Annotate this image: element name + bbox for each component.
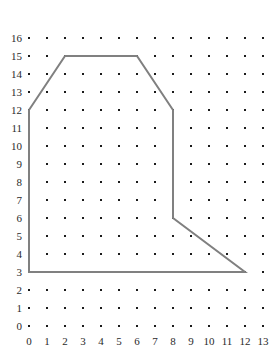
lattice-dot (262, 235, 264, 237)
lattice-dot (28, 37, 30, 39)
lattice-dot (226, 217, 228, 219)
lattice-dot (226, 145, 228, 147)
y-axis-tick-label: 0 (17, 321, 23, 332)
lattice-dot (154, 127, 156, 129)
y-axis-tick-label: 11 (11, 123, 22, 134)
lattice-dot (262, 163, 264, 165)
lattice-dot (118, 181, 120, 183)
lattice-dot (172, 55, 174, 57)
lattice-dot (118, 253, 120, 255)
x-axis-tick-label: 13 (258, 336, 269, 347)
lattice-dot-group (28, 37, 264, 327)
lattice-dot (82, 145, 84, 147)
lattice-dot (46, 235, 48, 237)
lattice-dot (208, 109, 210, 111)
polygon-plot (0, 0, 278, 354)
lattice-dot (46, 217, 48, 219)
lattice-dot (154, 217, 156, 219)
lattice-dot (82, 91, 84, 93)
lattice-dot (46, 163, 48, 165)
x-axis-tick-label: 6 (134, 336, 140, 347)
lattice-dot (118, 199, 120, 201)
lattice-dot (190, 127, 192, 129)
lattice-dot (208, 325, 210, 327)
lattice-dot (82, 253, 84, 255)
lattice-dot (154, 307, 156, 309)
lattice-dot (190, 163, 192, 165)
lattice-dot (64, 163, 66, 165)
lattice-dot (190, 109, 192, 111)
lattice-dot (118, 289, 120, 291)
lattice-dot (244, 73, 246, 75)
x-axis-tick-label: 3 (80, 336, 86, 347)
lattice-dot (46, 325, 48, 327)
y-axis-tick-label: 7 (17, 195, 23, 206)
x-axis-tick-label: 5 (116, 336, 122, 347)
lattice-dot (154, 289, 156, 291)
lattice-dot (100, 325, 102, 327)
lattice-dot (208, 253, 210, 255)
lattice-dot (28, 307, 30, 309)
lattice-dot (208, 289, 210, 291)
lattice-dot (208, 217, 210, 219)
lattice-dot (64, 91, 66, 93)
lattice-dot (190, 325, 192, 327)
lattice-dot (82, 235, 84, 237)
lattice-dot (172, 235, 174, 237)
lattice-dot (64, 181, 66, 183)
lattice-dot (244, 55, 246, 57)
lattice-dot (82, 73, 84, 75)
lattice-dot (244, 307, 246, 309)
lattice-dot (100, 109, 102, 111)
lattice-dot (262, 37, 264, 39)
lattice-dot (226, 289, 228, 291)
x-axis-tick-label: 4 (98, 336, 104, 347)
lattice-dot (136, 289, 138, 291)
y-axis-tick-label: 5 (17, 231, 23, 242)
lattice-dot (244, 253, 246, 255)
y-axis-tick-label: 6 (17, 213, 23, 224)
lattice-dot (244, 91, 246, 93)
lattice-dot (154, 145, 156, 147)
lattice-dot (136, 217, 138, 219)
lattice-dot (100, 217, 102, 219)
lattice-dot (136, 325, 138, 327)
lattice-dot (154, 109, 156, 111)
lattice-dot (190, 73, 192, 75)
lattice-dot (226, 73, 228, 75)
lattice-dot (244, 37, 246, 39)
lattice-dot (190, 235, 192, 237)
lattice-dot (190, 91, 192, 93)
lattice-dot (262, 55, 264, 57)
lattice-dot (244, 163, 246, 165)
lattice-dot (244, 127, 246, 129)
lattice-dot (136, 127, 138, 129)
lattice-dot (154, 91, 156, 93)
lattice-dot (172, 253, 174, 255)
x-axis-tick-label: 12 (240, 336, 251, 347)
lattice-dot (28, 325, 30, 327)
lattice-dot (136, 91, 138, 93)
lattice-dot (190, 55, 192, 57)
lattice-dot (118, 217, 120, 219)
lattice-dot (262, 253, 264, 255)
lattice-dot (118, 37, 120, 39)
lattice-dot (46, 289, 48, 291)
lattice-dot (262, 109, 264, 111)
lattice-dot (82, 37, 84, 39)
lattice-dot (46, 145, 48, 147)
lattice-dot (100, 163, 102, 165)
dot-grid-figure: 012345678910111213141516 012345678910111… (0, 0, 278, 354)
lattice-dot (46, 253, 48, 255)
lattice-dot (190, 199, 192, 201)
lattice-dot (190, 145, 192, 147)
lattice-dot (82, 289, 84, 291)
lattice-dot (154, 37, 156, 39)
lattice-dot (118, 91, 120, 93)
lattice-dot (190, 289, 192, 291)
lattice-dot (64, 127, 66, 129)
lattice-dot (262, 289, 264, 291)
lattice-dot (172, 91, 174, 93)
lattice-dot (118, 307, 120, 309)
lattice-dot (226, 181, 228, 183)
